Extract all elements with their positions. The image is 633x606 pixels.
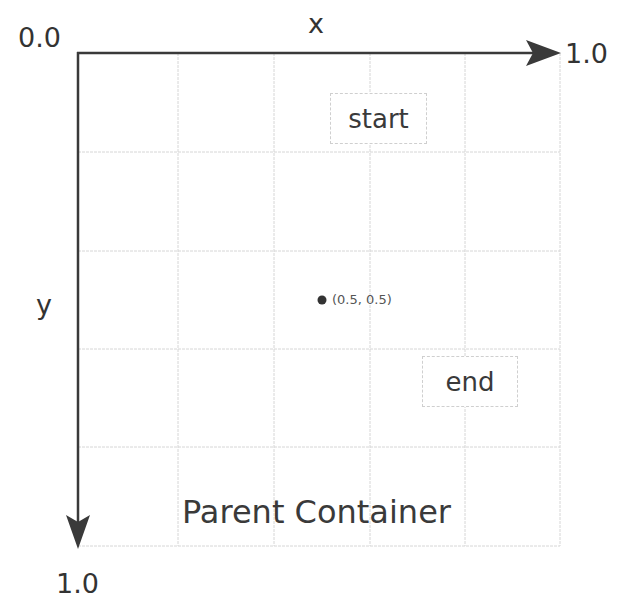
center-point-dot (318, 296, 327, 305)
parent-container-label: Parent Container (182, 496, 451, 528)
origin-label: 0.0 (18, 24, 61, 51)
start-box: start (330, 93, 427, 144)
start-box-label: start (348, 104, 409, 134)
x-axis-end-label: 1.0 (565, 40, 608, 67)
center-point-label: (0.5, 0.5) (332, 293, 392, 306)
x-axis-name: x (308, 10, 324, 37)
end-box-label: end (446, 367, 495, 397)
y-axis-arrow (66, 52, 90, 549)
y-axis-end-label: 1.0 (56, 570, 99, 597)
y-axis-name: y (36, 291, 52, 318)
x-axis-arrow (77, 40, 561, 66)
end-box: end (422, 356, 518, 407)
